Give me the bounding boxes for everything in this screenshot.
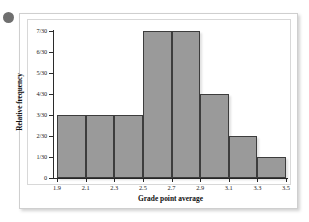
histogram-bar <box>86 115 115 178</box>
histogram-bar <box>57 115 86 178</box>
bar-series <box>0 0 309 222</box>
histogram-bar <box>143 31 172 178</box>
histogram-bar <box>114 115 143 178</box>
page-canvas: 01/302/303/304/305/306/307/30 1.92.12.32… <box>0 0 309 222</box>
histogram-bar <box>172 31 201 178</box>
histogram-bar <box>229 136 258 178</box>
histogram-bar <box>257 157 286 178</box>
histogram-bar <box>200 94 229 178</box>
